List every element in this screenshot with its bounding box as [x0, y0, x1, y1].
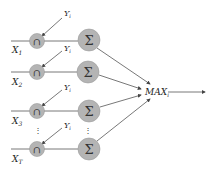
weight-label-t: Yi — [64, 121, 71, 131]
weight-line-t — [42, 128, 62, 144]
intersection-icon: ∩ — [33, 67, 41, 78]
max-label: MAXi — [144, 87, 169, 98]
max-aggregation-diagram: X1 Yi ∩ Σ X2 Yi ∩ Σ X3 Yi ∩ Σ ⋮ ⋮ — [0, 0, 215, 172]
weight-line-1 — [42, 18, 62, 36]
weight-label-1: Yi — [64, 9, 71, 19]
intersection-icon: ∩ — [33, 36, 41, 47]
intersection-icon: ∩ — [33, 144, 41, 155]
input-label-2: X2 — [11, 77, 22, 88]
sigma-icon: Σ — [84, 104, 93, 119]
to-max-arrow-1 — [97, 48, 150, 84]
input-label-1: X1 — [11, 45, 22, 56]
weight-label-3: Yi — [64, 83, 71, 93]
intersection-icon: ∩ — [33, 106, 41, 117]
weight-line-2 — [42, 51, 62, 67]
ellipsis-left: ⋮ — [34, 126, 42, 135]
row-2: X2 Yi ∩ Σ — [11, 44, 141, 89]
to-max-arrow-2 — [99, 75, 141, 89]
sigma-icon: Σ — [84, 33, 93, 48]
to-max-arrow-3 — [100, 95, 141, 107]
weight-line-3 — [42, 90, 62, 106]
weight-label-2: Yi — [64, 44, 71, 54]
ellipsis-right: ⋮ — [84, 126, 92, 135]
sigma-icon: Σ — [84, 142, 93, 157]
input-label-t: XT — [11, 154, 23, 165]
row-3: X3 Yi ∩ Σ — [11, 83, 141, 127]
input-label-3: X3 — [11, 116, 22, 127]
sigma-icon: Σ — [83, 65, 92, 80]
